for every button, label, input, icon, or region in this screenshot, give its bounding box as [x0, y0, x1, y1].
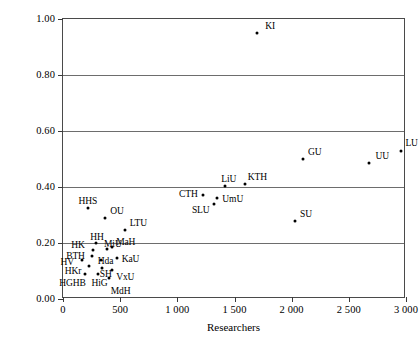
x-axis-tick-mark — [177, 297, 178, 302]
data-point-label: GU — [308, 148, 322, 158]
x-axis-tick-label: 0 — [60, 305, 65, 316]
data-point — [92, 249, 95, 252]
data-point-label: MdH — [111, 287, 131, 297]
data-point — [368, 162, 371, 165]
data-point-label: LU — [405, 139, 417, 149]
data-point-label: SU — [300, 210, 312, 220]
plot-area: 0.000.200.400.600.801.00 05001 0001 5002… — [62, 18, 405, 298]
data-point — [224, 184, 227, 187]
data-point-label: UU — [375, 152, 389, 162]
x-axis-tick-mark — [120, 297, 121, 302]
data-point-label: LiU — [221, 175, 236, 185]
y-axis-tick-label: 0.60 — [36, 126, 55, 137]
data-point — [104, 216, 107, 219]
data-point-label: HiG — [91, 279, 107, 289]
data-point-label: KTH — [248, 173, 267, 183]
x-axis-tick-label: 1 000 — [165, 305, 189, 316]
data-point-label: MiU — [104, 240, 122, 250]
data-point-label: CTH — [179, 190, 198, 200]
data-point-label: HKr — [65, 267, 82, 277]
y-axis-tick-label: 0.20 — [36, 238, 55, 249]
data-point-label: HHS — [79, 197, 98, 207]
data-point-label: UmU — [222, 195, 243, 205]
data-point-label: VxU — [116, 273, 134, 283]
data-point — [97, 273, 100, 276]
y-axis-tick-mark — [58, 187, 63, 188]
data-point — [302, 158, 305, 161]
data-point — [216, 197, 219, 200]
data-point — [400, 149, 403, 152]
x-axis-tick-mark — [292, 297, 293, 302]
x-axis-tick-mark — [406, 297, 407, 302]
y-axis-tick-label: 0.80 — [36, 70, 55, 81]
x-axis-tick-label: 2 500 — [337, 305, 361, 316]
data-point — [202, 194, 205, 197]
y-axis-tick-label: 1.00 — [36, 14, 55, 25]
data-point-label: SLU — [192, 206, 210, 216]
x-axis-tick-mark — [349, 297, 350, 302]
data-point — [86, 207, 89, 210]
y-axis-tick-mark — [58, 19, 63, 20]
data-point — [87, 264, 90, 267]
x-axis-tick-label: 500 — [112, 305, 128, 316]
data-point — [256, 32, 259, 35]
x-axis-tick-label: 2 000 — [280, 305, 304, 316]
data-point — [111, 268, 114, 271]
scatter-chart-figure: Normalized publications per researcher 0… — [0, 0, 419, 346]
x-axis-tick-mark — [235, 297, 236, 302]
data-point-label: HK — [71, 241, 85, 251]
data-point-label: OU — [110, 207, 124, 217]
y-axis-tick-mark — [58, 131, 63, 132]
data-point — [91, 254, 94, 257]
data-point-label: KI — [265, 22, 275, 32]
data-point — [84, 273, 87, 276]
x-axis-tick-label: 1 500 — [222, 305, 246, 316]
data-point — [294, 219, 297, 222]
gridline — [63, 187, 404, 188]
data-point — [212, 202, 215, 205]
data-point-label: HH — [90, 233, 104, 243]
x-axis-tick-label: 3 000 — [394, 305, 418, 316]
gridline — [63, 75, 404, 76]
gridline — [63, 131, 404, 132]
x-axis-title: Researchers — [62, 322, 405, 333]
x-axis-tick-mark — [63, 297, 64, 302]
data-point-label: HGHB — [59, 279, 86, 289]
data-point — [81, 259, 84, 262]
data-point — [123, 229, 126, 232]
y-axis-tick-label: 0.00 — [36, 294, 55, 305]
y-axis-tick-mark — [58, 75, 63, 76]
data-point-label: Hda — [98, 257, 114, 267]
data-point — [243, 182, 246, 185]
data-point-label: KaU — [122, 255, 140, 265]
data-point — [107, 277, 110, 280]
data-point — [115, 256, 118, 259]
data-point-label: LTU — [130, 219, 147, 229]
y-axis-tick-mark — [58, 243, 63, 244]
y-axis-tick-label: 0.40 — [36, 182, 55, 193]
